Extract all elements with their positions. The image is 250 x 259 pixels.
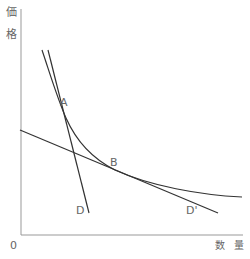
x-axis-label-2: 量 <box>234 240 244 251</box>
point-a-label: A <box>60 97 68 108</box>
origin-label: 0 <box>10 240 17 251</box>
x-axis-label-1: 数 <box>215 240 225 251</box>
point-b-label: B <box>110 157 118 168</box>
line-d <box>48 50 89 213</box>
demand-curve <box>42 50 242 197</box>
line-d-prime <box>20 130 218 213</box>
line-d-label: D <box>76 205 84 216</box>
y-axis-label-2: 格 <box>6 29 17 40</box>
line-d-prime-label: D' <box>186 205 198 216</box>
demand-diagram <box>0 0 250 259</box>
y-axis-label-1: 価 <box>6 7 17 18</box>
